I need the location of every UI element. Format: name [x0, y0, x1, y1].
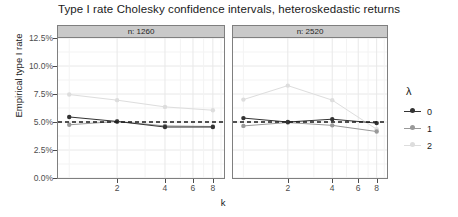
legend-key-dot	[410, 108, 415, 113]
series-point-lambda-1	[374, 129, 378, 133]
x-tick-label: 2	[115, 183, 120, 193]
facet-strip-left: n: 1260	[57, 25, 225, 37]
legend-item-lambda-0[interactable]: 0	[404, 103, 458, 120]
y-axis-tick-labels: 0.0%2.5%5.0%7.5%10.0%12.5%	[0, 0, 53, 217]
chart-title: Type I rate Cholesky confidence interval…	[0, 3, 458, 15]
legend-items: 012	[404, 103, 458, 154]
y-tick-label: 10.0%	[19, 61, 53, 71]
series-point-lambda-2	[115, 98, 119, 102]
tickmark	[358, 179, 359, 183]
x-tick-label: 2	[285, 183, 290, 193]
chart-root: Type I rate Cholesky confidence interval…	[0, 0, 458, 217]
y-tick-label: 2.5%	[19, 145, 53, 155]
series-line-lambda-1	[243, 123, 376, 132]
panel-left-plot-area	[58, 38, 224, 178]
series-point-lambda-2	[330, 98, 334, 102]
legend: λ 012	[404, 85, 458, 154]
y-tick-label: 7.5%	[19, 89, 53, 99]
legend-item-lambda-1[interactable]: 1	[404, 120, 458, 137]
y-tick-label: 0.0%	[19, 173, 53, 183]
legend-key-icon	[404, 120, 421, 137]
tickmark	[117, 179, 118, 183]
tickmark	[332, 179, 333, 183]
series-point-lambda-1	[241, 124, 245, 128]
x-tick-label: 4	[163, 183, 168, 193]
series-point-lambda-0	[163, 125, 167, 129]
tickmark	[193, 179, 194, 183]
series-point-lambda-2	[286, 83, 290, 87]
x-tick-label: 6	[191, 183, 196, 193]
facet-panel-right	[232, 37, 388, 179]
legend-item-label: 1	[421, 124, 432, 134]
series-point-lambda-1	[67, 123, 71, 127]
series-point-lambda-0	[241, 116, 245, 120]
series-point-lambda-2	[241, 97, 245, 101]
series-point-lambda-0	[211, 125, 215, 129]
series-line-lambda-2	[243, 86, 376, 130]
x-tick-label: 8	[374, 183, 379, 193]
legend-title: λ	[404, 85, 458, 97]
tickmark	[288, 179, 289, 183]
series-point-lambda-2	[211, 108, 215, 112]
facet-panel-left	[57, 37, 225, 179]
y-tick-label: 12.5%	[19, 33, 53, 43]
legend-key-icon	[404, 103, 421, 120]
legend-item-label: 2	[421, 141, 432, 151]
tickmark	[213, 179, 214, 183]
x-tick-label: 8	[210, 183, 215, 193]
x-tick-label: 4	[330, 183, 335, 193]
tickmark	[165, 179, 166, 183]
y-tick-label: 5.0%	[19, 117, 53, 127]
legend-key-dot	[410, 142, 415, 147]
legend-key-dot	[410, 125, 415, 130]
series-point-lambda-2	[67, 92, 71, 96]
series-point-lambda-0	[67, 115, 71, 119]
series-point-lambda-1	[330, 123, 334, 127]
series-point-lambda-2	[163, 105, 167, 109]
x-tick-label: 6	[356, 183, 361, 193]
legend-item-label: 0	[421, 107, 432, 117]
tickmark	[377, 179, 378, 183]
legend-item-lambda-2[interactable]: 2	[404, 137, 458, 154]
facet-strip-right: n: 2520	[232, 25, 388, 37]
x-axis-title: k	[58, 197, 388, 208]
series-point-lambda-0	[330, 117, 334, 121]
legend-key-icon	[404, 137, 421, 154]
panel-right-plot-area	[233, 38, 387, 178]
